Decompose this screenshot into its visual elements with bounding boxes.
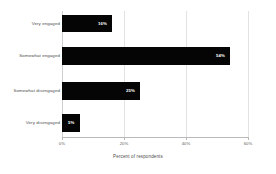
- bar-chart: 0% 20% 40% 60% Very engaged Somewhat eng…: [0, 0, 276, 174]
- bar-value-somewhat-disengaged: 25%: [126, 88, 135, 93]
- bar-somewhat-engaged: [62, 47, 230, 65]
- category-label-very-engaged: Very engaged: [32, 21, 60, 26]
- tick-mark-20: [124, 137, 125, 140]
- bar-value-very-disengaged: 5%: [68, 120, 74, 125]
- gridline-20: [124, 11, 125, 137]
- x-tick-label-60: 60%: [244, 141, 253, 146]
- gridline-60: [248, 11, 249, 137]
- x-tick-label-40: 40%: [182, 141, 191, 146]
- gridline-40: [186, 11, 187, 137]
- category-label-very-disengaged: Very disengaged: [26, 120, 60, 125]
- category-label-somewhat-engaged: Somewhat engaged: [19, 53, 60, 58]
- tick-mark-0: [62, 137, 63, 140]
- x-tick-label-20: 20%: [120, 141, 129, 146]
- bar-value-somewhat-engaged: 54%: [216, 53, 225, 58]
- x-tick-label-0: 0%: [59, 141, 65, 146]
- x-axis-line: [62, 137, 249, 138]
- tick-mark-40: [186, 137, 187, 140]
- bar-value-very-engaged: 16%: [98, 21, 107, 26]
- x-axis-title: Percent of respondents: [0, 154, 276, 159]
- tick-mark-60: [248, 137, 249, 140]
- category-label-somewhat-disengaged: Somewhat disengaged: [13, 88, 60, 93]
